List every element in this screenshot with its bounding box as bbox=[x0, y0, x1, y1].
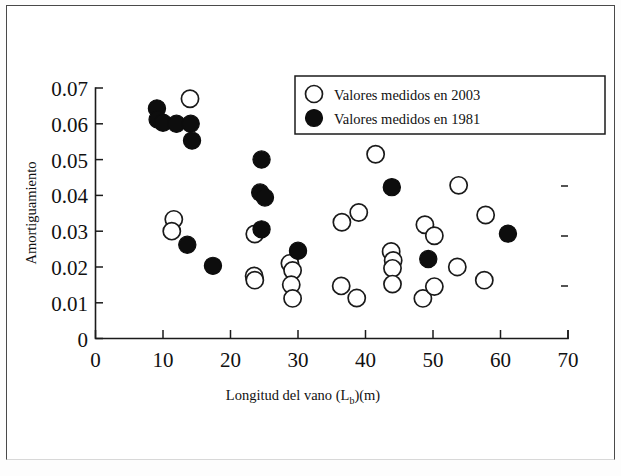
x-tick-label: 30 bbox=[288, 348, 309, 372]
data-point-1981 bbox=[383, 179, 400, 196]
legend-label-2003: Valores medidos en 2003 bbox=[334, 87, 480, 103]
y-tick-label: 0.02 bbox=[51, 256, 88, 280]
x-tick-label: 40 bbox=[355, 348, 376, 372]
data-point-2003 bbox=[426, 227, 443, 244]
legend-label-1981: Valores medidos en 1981 bbox=[334, 111, 480, 127]
data-point-2003 bbox=[163, 223, 180, 240]
data-point-2003 bbox=[284, 290, 301, 307]
data-point-2003 bbox=[348, 289, 365, 306]
data-point-1981 bbox=[182, 115, 199, 132]
data-point-2003 bbox=[450, 177, 467, 194]
y-tick-label: 0.03 bbox=[51, 220, 88, 244]
figure-container: 0.07 0.06 0.05 0.04 0.03 0.02 0.01 0 0 1… bbox=[0, 0, 621, 476]
data-point-1981 bbox=[420, 250, 437, 267]
y-axis-title: Amortiguamiento bbox=[23, 161, 39, 264]
data-point-1981 bbox=[204, 257, 221, 274]
data-point-1981 bbox=[499, 225, 516, 242]
data-point-1981 bbox=[183, 132, 200, 149]
legend: Valores medidos en 2003 Valores medidos … bbox=[295, 76, 605, 134]
data-point-2003 bbox=[384, 276, 401, 293]
x-axis-tick-labels: 0 10 20 30 40 50 60 70 bbox=[90, 348, 578, 372]
legend-marker-filled-circle-icon bbox=[306, 110, 323, 127]
y-axis-tick-labels: 0.07 0.06 0.05 0.04 0.03 0.02 0.01 0 bbox=[51, 77, 88, 352]
y-tick-label: 0.07 bbox=[51, 77, 88, 101]
data-point-2003 bbox=[181, 90, 198, 107]
x-axis-title: Longitud del vano (Lb)(m) bbox=[226, 387, 381, 406]
y-tick-label: 0 bbox=[78, 328, 89, 352]
x-axis-ticks bbox=[96, 330, 569, 339]
data-point-2003 bbox=[246, 272, 263, 289]
x-tick-label: 70 bbox=[558, 348, 579, 372]
scatter-plot: 0.07 0.06 0.05 0.04 0.03 0.02 0.01 0 0 1… bbox=[0, 0, 621, 476]
y-axis-ticks bbox=[96, 88, 104, 339]
data-point-2003 bbox=[476, 272, 493, 289]
data-point-2003 bbox=[333, 214, 350, 231]
x-axis-title-tail: )(m) bbox=[354, 387, 380, 404]
y-tick-label: 0.06 bbox=[51, 113, 88, 137]
data-point-2003 bbox=[333, 277, 350, 294]
data-point-2003 bbox=[384, 260, 401, 277]
data-point-2003 bbox=[477, 206, 494, 223]
x-tick-label: 10 bbox=[153, 348, 174, 372]
x-axis-title-main: Longitud del vano (L bbox=[226, 387, 350, 404]
x-tick-label: 50 bbox=[423, 348, 444, 372]
x-tick-label: 0 bbox=[90, 348, 101, 372]
data-point-2003 bbox=[367, 146, 384, 163]
y-tick-label: 0.04 bbox=[51, 184, 88, 208]
x-tick-label: 60 bbox=[490, 348, 511, 372]
y-tick-label: 0.01 bbox=[51, 292, 88, 316]
data-point-2003 bbox=[350, 204, 367, 221]
y-tick-label: 0.05 bbox=[51, 149, 88, 173]
legend-marker-open-circle-icon bbox=[306, 86, 323, 103]
data-point-1981 bbox=[253, 151, 270, 168]
data-point-2003 bbox=[449, 258, 466, 275]
chart-canvas: 0.07 0.06 0.05 0.04 0.03 0.02 0.01 0 0 1… bbox=[0, 0, 621, 476]
data-point-2003 bbox=[426, 278, 443, 295]
data-point-1981 bbox=[253, 221, 270, 238]
svg-text:Longitud del vano (Lb)(m): Longitud del vano (Lb)(m) bbox=[226, 387, 381, 406]
data-point-1981 bbox=[256, 189, 273, 206]
data-point-1981 bbox=[179, 236, 196, 253]
data-point-1981 bbox=[289, 242, 306, 259]
x-tick-label: 20 bbox=[220, 348, 241, 372]
